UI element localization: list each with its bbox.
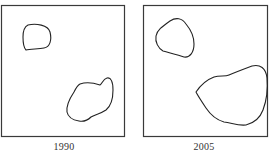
caption-2005: 2005 <box>174 141 234 152</box>
panel-2005 <box>144 6 268 137</box>
large-region <box>196 66 267 126</box>
small-region <box>156 19 194 58</box>
small-region <box>23 24 51 50</box>
panel-1990 <box>2 6 125 137</box>
caption-1990: 1990 <box>34 141 94 152</box>
large-region <box>67 78 113 121</box>
panel-frame <box>2 6 125 137</box>
figure-canvas <box>0 0 270 155</box>
panel-frame <box>144 6 268 137</box>
